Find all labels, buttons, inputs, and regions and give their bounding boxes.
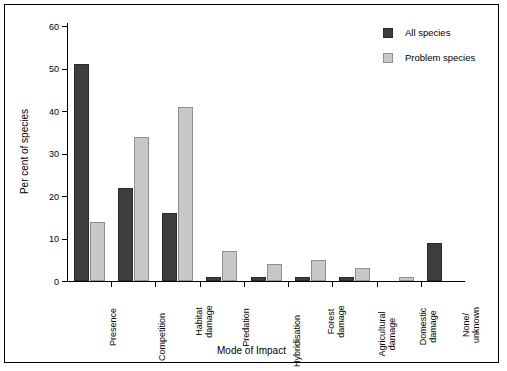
chart-figure-frame: 0102030405060 PresenceCompetitionHabitat… bbox=[4, 4, 499, 363]
x-tick-mark bbox=[111, 282, 112, 287]
bar-all-species bbox=[74, 64, 89, 281]
y-tick-mark bbox=[62, 111, 67, 112]
x-axis-category-label: Domestic damage bbox=[417, 308, 437, 346]
bar-problem-species bbox=[311, 260, 326, 281]
legend-item-label: All species bbox=[405, 27, 450, 38]
bar-all-species bbox=[162, 213, 177, 281]
legend-item-label: Problem species bbox=[405, 52, 475, 63]
x-tick-mark bbox=[377, 282, 378, 287]
x-tick-mark bbox=[155, 282, 156, 287]
y-tick-mark bbox=[62, 281, 67, 282]
x-axis-category-label: Presence bbox=[108, 308, 118, 346]
x-tick-mark bbox=[332, 282, 333, 287]
x-tick-mark bbox=[200, 282, 201, 287]
legend-item: All species bbox=[383, 27, 475, 38]
x-tick-mark bbox=[288, 282, 289, 287]
x-tick-mark bbox=[421, 282, 422, 287]
y-tick-mark bbox=[62, 196, 67, 197]
legend-swatch-icon bbox=[383, 53, 393, 63]
bar-all-species bbox=[427, 243, 442, 281]
bar-problem-species bbox=[222, 251, 237, 281]
x-axis-line bbox=[67, 281, 465, 282]
legend-item: Problem species bbox=[383, 52, 475, 63]
y-tick-label: 20 bbox=[49, 192, 59, 201]
x-axis-category-label: Forest damage bbox=[326, 305, 346, 338]
bar-problem-species bbox=[90, 222, 105, 282]
y-tick-label: 60 bbox=[49, 22, 59, 31]
bar-all-species bbox=[295, 277, 310, 281]
x-axis-title: Mode of Impact bbox=[5, 345, 498, 356]
bar-all-species bbox=[118, 188, 133, 282]
y-axis-line bbox=[67, 23, 68, 282]
bar-problem-species bbox=[399, 277, 414, 281]
legend-swatch-icon bbox=[383, 28, 393, 38]
y-tick-mark bbox=[62, 26, 67, 27]
chart-legend: All speciesProblem species bbox=[383, 27, 475, 77]
y-axis-title: Per cent of species bbox=[19, 109, 30, 194]
bar-problem-species bbox=[134, 137, 149, 282]
x-tick-mark bbox=[244, 282, 245, 287]
y-tick-label: 0 bbox=[54, 277, 59, 286]
y-tick-label: 10 bbox=[49, 235, 59, 244]
y-tick-mark bbox=[62, 69, 67, 70]
y-tick-label: 50 bbox=[49, 65, 59, 74]
bar-all-species bbox=[206, 277, 221, 281]
x-axis-category-label: Hybridisation bbox=[292, 315, 302, 367]
x-axis-category-label: Predation bbox=[241, 308, 251, 347]
x-axis-category-label: Habitat damage bbox=[194, 305, 214, 338]
bar-all-species bbox=[339, 277, 354, 281]
y-tick-mark bbox=[62, 154, 67, 155]
bar-problem-species bbox=[267, 264, 282, 281]
bar-problem-species bbox=[355, 268, 370, 281]
x-axis-category-label: None/ unknown bbox=[461, 307, 481, 343]
bar-problem-species bbox=[178, 107, 193, 281]
y-tick-mark bbox=[62, 239, 67, 240]
y-tick-label: 40 bbox=[49, 107, 59, 116]
y-tick-label: 30 bbox=[49, 150, 59, 159]
bar-all-species bbox=[251, 277, 266, 281]
